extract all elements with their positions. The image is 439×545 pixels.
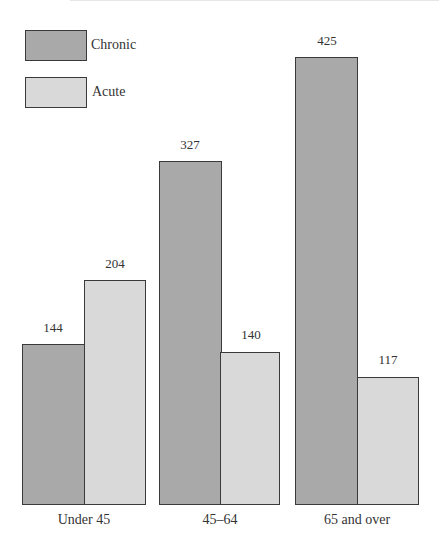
value-label: 144 [22,320,84,336]
bar-45-64-acute [220,352,280,505]
top-rule [70,0,439,1]
legend-label-acute: Acute [92,84,125,100]
legend-swatch-acute [25,77,87,108]
category-label-under45: Under 45 [19,512,149,528]
value-label: 425 [296,33,358,49]
value-label: 204 [84,256,146,272]
value-label: 327 [159,137,221,153]
bar-under45-chronic [22,344,85,505]
bar-under45-acute [84,280,146,505]
value-label: 140 [220,327,282,343]
value-label: 117 [357,352,419,368]
category-label-65-over: 65 and over [292,512,422,528]
bar-45-64-chronic [159,161,222,505]
legend-label-chronic: Chronic [91,37,136,53]
category-label-45-64: 45–64 [155,512,285,528]
bar-65-over-chronic [295,57,358,505]
bar-65-over-acute [357,377,419,505]
legend-swatch-chronic [25,30,87,61]
